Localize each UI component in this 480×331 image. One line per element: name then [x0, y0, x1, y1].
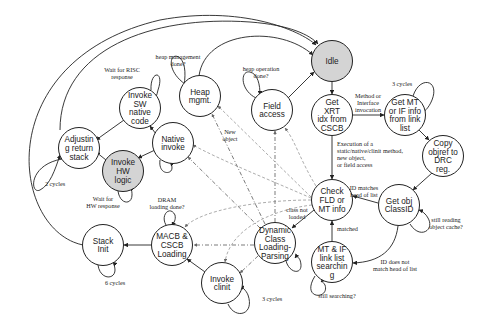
label-check-to-dcl: class notloaded [286, 206, 308, 220]
edge-dcl-to-native [188, 157, 260, 228]
label-xrt-to-check: Execution of astatic/native/clinit metho… [337, 140, 403, 168]
label-xrt-to-getmt: Method orInterfaceinvocation [355, 92, 381, 113]
edge-copy-to-classid [413, 173, 432, 190]
state-node-dcl: DynamicClassLoading-Parsing [255, 223, 296, 264]
label-classid-to-search: ID does notmatch head of list [373, 258, 417, 272]
state-node-copy: Copyobjref toDRCreg. [423, 136, 464, 177]
state-node-stack: StackInit [83, 225, 124, 266]
label-adjust-loop: 2 cycles [45, 180, 66, 187]
state-label: CheckFLD orMT info [318, 187, 346, 213]
edge-dcl-to-clinit [240, 256, 258, 273]
state-diagram: IdleHeapmgmt.FieldaccessGetXRTidx fromCS… [0, 0, 480, 331]
edge-check-to-native [193, 145, 311, 198]
label-classid-to-check: ID matcheshead of list [350, 184, 379, 198]
label-macb-loop: DRAMloading done? [150, 196, 185, 210]
edge-clinit-to-macb [187, 259, 205, 272]
label-search-to-check: matched [337, 225, 359, 232]
label-heap-loop: heap managementdone? [156, 53, 201, 67]
label-new-object: Newobject [222, 128, 237, 142]
label-search-loop: still searching? [318, 292, 356, 299]
state-node-swnative: InvokeSWnativecode [120, 88, 161, 129]
label-clinit-loop: 3 cycles [262, 295, 283, 302]
label-swnative-loop: Wait for RISCresponse [104, 66, 140, 80]
state-node-search: MT & IFlink listsearching [312, 242, 353, 283]
state-label: Heapmgmt. [189, 88, 212, 106]
state-node-heap: Heapmgmt. [180, 76, 221, 117]
state-node-macb: MACB &CSCBLoading [152, 225, 193, 266]
label-hw-loop: Wait forHW response [86, 195, 120, 209]
state-label: DynamicClassLoading-Parsing [259, 226, 291, 261]
edge-field-to-idle [288, 72, 314, 98]
edge-swnative-to-adjust [96, 120, 124, 140]
state-node-getmt: Get MTor IF infofrom linklist [385, 95, 426, 136]
label-classid-loop: still readingobject cache? [429, 216, 463, 230]
edge-native-to-hw [138, 150, 155, 158]
state-node-check: CheckFLD orMT info [312, 180, 353, 221]
state-label: Get objClassID [385, 197, 414, 215]
state-label: InvokeSWnativecode [128, 91, 153, 126]
state-node-field: Fieldaccess [252, 90, 293, 131]
state-node-idle: Idle [312, 41, 353, 82]
state-node-xrt: GetXRTidx fromCSCB [312, 95, 353, 136]
edge-dcl-to-heap [212, 114, 265, 224]
state-label: Nativeinvoke [161, 135, 185, 153]
state-node-adjust: Adjusting returnstack [59, 128, 100, 169]
edge-getmt-to-copy [419, 130, 429, 140]
state-label: Idle [325, 57, 339, 66]
label-stack-loop: 6 cycles [105, 279, 126, 286]
state-node-native: Nativeinvoke [153, 123, 194, 164]
label-getmt-loop: 3 cycles [392, 80, 413, 87]
edge-check-to-field [285, 128, 316, 186]
state-node-clinit: Invokeclinit [202, 263, 243, 304]
state-node-classid: Get objClassID [379, 185, 420, 226]
loop-macb [164, 211, 175, 226]
state-node-hw: InvokeHWlogic [103, 151, 144, 192]
